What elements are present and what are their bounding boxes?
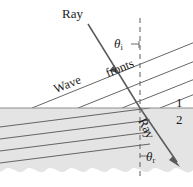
refraction-diagram-canvas	[0, 0, 193, 187]
medium-1-label: 1	[176, 96, 183, 109]
angle-of-incidence-label: θi	[114, 37, 123, 51]
refraction-diagram-figure: Ray Ray θi θr Wave fronts 1 2	[0, 0, 193, 187]
incident-ray-label: Ray	[62, 7, 83, 20]
medium-2-label: 2	[176, 113, 183, 126]
theta-r-subscript: r	[152, 155, 155, 165]
medium-2-region	[0, 108, 193, 172]
angle-of-refraction-label: θr	[146, 150, 155, 164]
theta-i-subscript: i	[120, 42, 122, 52]
